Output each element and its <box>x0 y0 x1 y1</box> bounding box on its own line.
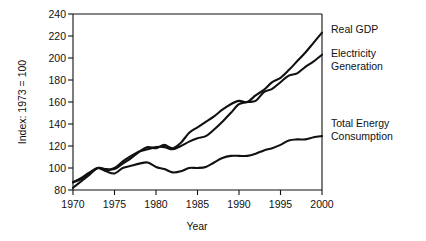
series-label-real-gdp: Real GDP <box>331 23 378 35</box>
x-tick-label: 2000 <box>310 198 334 210</box>
x-tick-label: 1970 <box>61 198 85 210</box>
y-tick-label: 240 <box>48 8 66 20</box>
x-axis-title: Year <box>186 220 208 232</box>
y-tick-label: 100 <box>48 162 66 174</box>
series-label-electricity-generation: Electricity Generation <box>331 47 383 72</box>
y-tick-label: 200 <box>48 52 66 64</box>
series-label-text: Consumption <box>331 130 393 142</box>
x-tick-label: 1990 <box>227 198 251 210</box>
x-tick-label: 1980 <box>144 198 168 210</box>
y-tick-label: 120 <box>48 140 66 152</box>
series-label-text: Generation <box>331 60 383 72</box>
y-tick-label: 160 <box>48 96 66 108</box>
series-label-text: Electricity <box>331 47 377 59</box>
chart-container: Index: 1973 = 100 240 220 200 180 160 14… <box>0 0 426 241</box>
series-label-text: Real GDP <box>331 23 378 35</box>
y-tick-label: 140 <box>48 118 66 130</box>
y-axis-title: Index: 1973 = 100 <box>16 60 28 145</box>
y-tick-label: 220 <box>48 30 66 42</box>
y-tick-labels: 240 220 200 180 160 140 120 100 80 <box>48 8 66 196</box>
series-label-text: Total Energy <box>331 117 390 129</box>
x-tick-label: 1975 <box>103 198 127 210</box>
series-label-total-energy-consumption: Total Energy Consumption <box>331 117 393 142</box>
y-tick-label: 80 <box>54 184 66 196</box>
x-tick-label: 1995 <box>269 198 293 210</box>
line-chart: Index: 1973 = 100 240 220 200 180 160 14… <box>0 0 426 241</box>
y-tick-label: 180 <box>48 74 66 86</box>
x-tick-label: 1985 <box>186 198 210 210</box>
